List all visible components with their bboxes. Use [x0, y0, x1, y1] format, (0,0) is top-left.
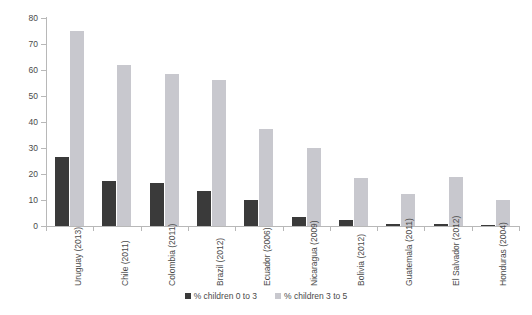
x-axis-tick: [141, 226, 142, 231]
y-axis-tick-label: 70: [4, 40, 38, 49]
bar-children-0-3: [150, 183, 164, 226]
y-axis-tick: [41, 44, 46, 45]
bar-children-3-5: [212, 80, 226, 226]
bar-children-0-3: [244, 200, 258, 226]
x-axis-tick: [519, 226, 520, 231]
x-axis-category-text: El Salvador (2012): [452, 216, 461, 286]
x-axis-category-text: Uruguay (2013): [74, 227, 83, 286]
x-axis-tick: [46, 226, 47, 231]
y-axis-line: [46, 17, 47, 227]
legend-label: % children 3 to 5: [284, 292, 347, 301]
y-axis-tick: [41, 70, 46, 71]
x-axis-category-text: Nicaragua (2009): [310, 220, 319, 286]
y-axis-tick: [41, 96, 46, 97]
y-axis-tick: [41, 148, 46, 149]
bar-chart: 01020304050607080 Uruguay (2013)Chile (2…: [0, 0, 532, 315]
legend-swatch-icon: [275, 293, 281, 299]
bar-children-0-3: [434, 224, 448, 226]
legend-label: % children 0 to 3: [194, 292, 257, 301]
legend-swatch-icon: [185, 293, 191, 299]
x-axis-category-text: Guatemala (2011): [405, 218, 414, 286]
y-axis-tick: [41, 122, 46, 123]
x-axis-tick: [377, 226, 378, 231]
x-axis-tick: [235, 226, 236, 231]
bar-children-0-3: [386, 224, 400, 226]
bar-children-3-5: [165, 74, 179, 226]
chart-legend: % children 0 to 3% children 3 to 5: [0, 292, 532, 301]
x-axis-category-text: Brazil (2012): [216, 238, 225, 286]
bar-children-3-5: [117, 65, 131, 226]
y-axis-tick-label: 40: [4, 118, 38, 127]
bar-children-0-3: [102, 181, 116, 227]
x-axis-category-text: Chile (2011): [121, 240, 130, 286]
bar-children-0-3: [339, 220, 353, 227]
y-axis-tick-label: 80: [4, 14, 38, 23]
bar-children-0-3: [481, 225, 495, 227]
x-axis-tick: [93, 226, 94, 231]
x-axis-category-text: Honduras (2004): [499, 222, 508, 286]
y-axis-tick-label: 60: [4, 66, 38, 75]
x-axis-tick: [472, 226, 473, 231]
bar-children-0-3: [55, 157, 69, 226]
y-axis-tick-label: 0: [4, 222, 38, 231]
bar-children-0-3: [292, 217, 306, 226]
bar-children-3-5: [259, 129, 273, 227]
y-axis-tick-label: 30: [4, 144, 38, 153]
x-axis-tick: [330, 226, 331, 231]
bar-children-3-5: [354, 178, 368, 226]
bar-children-0-3: [197, 191, 211, 226]
y-axis-tick: [41, 174, 46, 175]
x-axis-category-text: Bolivia (2012): [357, 234, 366, 286]
x-axis-category-text: Ecuador (2006): [263, 227, 272, 286]
x-axis-tick: [283, 226, 284, 231]
x-axis-tick: [188, 226, 189, 231]
y-axis-tick-label: 50: [4, 92, 38, 101]
y-axis-tick-label: 10: [4, 196, 38, 205]
bar-children-3-5: [70, 31, 84, 226]
y-axis-tick: [41, 200, 46, 201]
x-axis-tick: [424, 226, 425, 231]
x-axis-category-text: Colombia (2011): [168, 224, 177, 286]
y-axis-tick: [41, 18, 46, 19]
y-axis-tick-label: 20: [4, 170, 38, 179]
bar-children-3-5: [307, 148, 321, 226]
legend-item[interactable]: % children 3 to 5: [275, 292, 347, 301]
legend-item[interactable]: % children 0 to 3: [185, 292, 257, 301]
